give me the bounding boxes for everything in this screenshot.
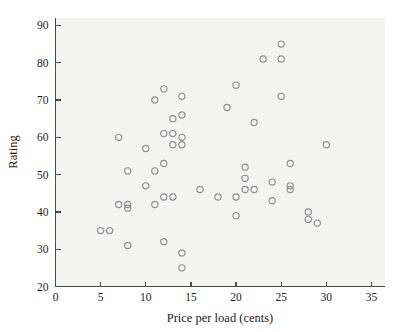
y-tick-label: 70 (37, 94, 49, 106)
x-axis-title: Price per load (cents) (167, 311, 274, 325)
y-tick-label: 80 (37, 57, 49, 69)
y-axis-title: Rating (6, 135, 20, 169)
y-axis-tick-labels: 2030405060708090 (37, 19, 49, 292)
y-tick-label: 20 (37, 281, 49, 293)
x-tick-label: 30 (321, 291, 333, 303)
x-tick-label: 15 (185, 291, 197, 303)
x-tick-label: 35 (366, 291, 378, 303)
y-tick-label: 60 (37, 131, 49, 143)
scatter-plot-canvas: 05101520253035 2030405060708090 Price pe… (0, 0, 393, 332)
x-tick-label: 25 (275, 291, 287, 303)
x-tick-label: 20 (230, 291, 242, 303)
x-axis-tick-labels: 05101520253035 (53, 291, 378, 303)
y-tick-label: 90 (37, 19, 49, 31)
plot-area-background (56, 18, 385, 286)
x-tick-label: 0 (53, 291, 59, 303)
y-tick-label: 50 (37, 169, 49, 181)
y-tick-label: 40 (37, 206, 49, 218)
scatter-plot-figure: 05101520253035 2030405060708090 Price pe… (0, 0, 393, 332)
y-tick-label: 30 (37, 243, 49, 255)
x-tick-label: 5 (98, 291, 104, 303)
x-tick-label: 10 (140, 291, 152, 303)
